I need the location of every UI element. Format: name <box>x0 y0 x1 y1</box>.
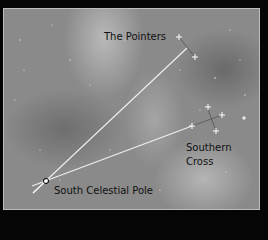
southern-cross-stars <box>189 104 246 134</box>
pointers-line <box>33 48 187 193</box>
cross-line <box>32 126 192 186</box>
southern-cross-label-line1: Southern <box>186 142 232 154</box>
southern-cross-label-line2: Cross <box>186 156 213 168</box>
pole-label: South Celestial Pole <box>54 185 153 197</box>
pointers-label: The Pointers <box>104 31 166 43</box>
